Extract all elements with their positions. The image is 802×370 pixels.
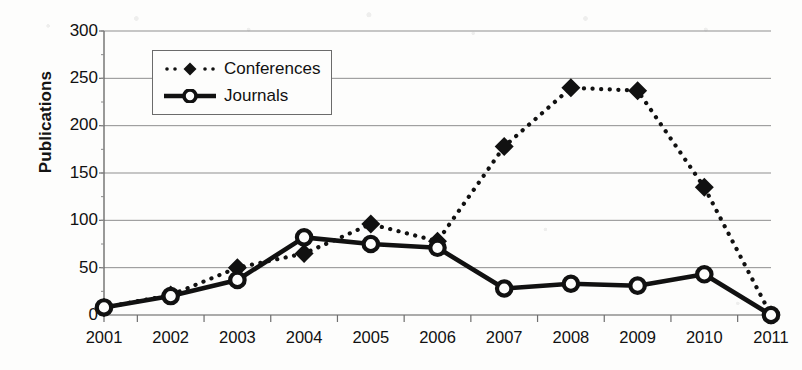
circle-marker-icon <box>163 89 217 103</box>
data-point-marker <box>628 81 647 100</box>
data-point-marker <box>164 289 178 303</box>
x-tick-label: 2007 <box>486 328 523 347</box>
data-point-marker <box>764 308 778 322</box>
chart-legend: Conferences Journals <box>152 50 332 115</box>
data-point-marker <box>561 78 580 97</box>
x-tick-label: 2005 <box>352 328 389 347</box>
plot-area <box>0 0 802 370</box>
data-point-marker <box>697 267 711 281</box>
data-point-marker <box>297 230 311 244</box>
x-tick-label: 2010 <box>686 328 723 347</box>
x-tick-label: 2004 <box>286 328 323 347</box>
data-point-marker <box>295 244 314 263</box>
legend-entry-conferences: Conferences <box>163 56 320 82</box>
x-tick-label: 2001 <box>86 328 123 347</box>
data-point-marker <box>630 278 644 292</box>
data-point-marker <box>230 273 244 287</box>
data-point-marker <box>695 178 714 197</box>
legend-entry-journals: Journals <box>163 83 288 109</box>
x-tick-label: 2009 <box>619 328 656 347</box>
data-point-marker <box>430 241 444 255</box>
x-tick-label: 2003 <box>219 328 256 347</box>
x-tick-label: 2011 <box>753 328 788 347</box>
diamond-marker-icon <box>163 62 217 76</box>
data-point-marker <box>97 300 111 314</box>
x-tick-label: 2006 <box>419 328 456 347</box>
publications-line-chart: Publications 300 250 200 150 100 50 0 20… <box>0 0 802 370</box>
data-point-marker <box>361 215 380 234</box>
legend-label-conferences: Conferences <box>224 59 320 79</box>
data-point-marker <box>564 277 578 291</box>
legend-label-journals: Journals <box>224 86 288 106</box>
x-tick-label: 2002 <box>152 328 189 347</box>
data-point-marker <box>364 237 378 251</box>
x-tick-label: 2008 <box>553 328 590 347</box>
data-point-marker <box>497 281 511 295</box>
